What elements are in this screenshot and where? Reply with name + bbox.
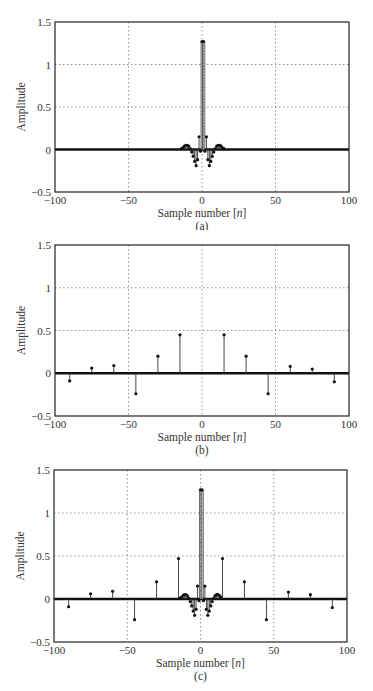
stem-marker xyxy=(208,609,211,612)
x-tick-label: 50 xyxy=(268,644,280,656)
stem-marker xyxy=(309,593,312,596)
stem-marker xyxy=(193,614,196,617)
x-tick-label: 100 xyxy=(339,644,356,656)
x-tick-label: −50 xyxy=(119,644,137,656)
stem-marker xyxy=(111,590,114,593)
stem-marker xyxy=(197,599,200,602)
stem-plot-c: −100−50050100−0.500.511.5Sample number [… xyxy=(0,0,373,691)
stem-marker xyxy=(202,599,205,602)
stem-marker xyxy=(287,591,290,594)
stem-marker xyxy=(177,557,180,560)
stem-marker xyxy=(133,618,136,621)
stem-marker xyxy=(221,557,224,560)
stem-marker xyxy=(67,605,70,608)
stem-marker xyxy=(89,592,92,595)
panel-caption: (c) xyxy=(194,670,207,683)
plot-group: −100−50050100−0.500.511.5Sample number [… xyxy=(14,464,356,683)
stem-marker xyxy=(331,606,334,609)
y-tick-label: −0.5 xyxy=(30,636,50,648)
stem-marker xyxy=(195,608,198,611)
x-tick-label: 0 xyxy=(198,644,204,656)
stem-marker xyxy=(200,488,203,491)
y-tick-label: 1.5 xyxy=(36,464,50,476)
stem-marker xyxy=(203,585,206,588)
y-axis-label: Amplitude xyxy=(14,531,27,580)
y-tick-label: 0.5 xyxy=(36,550,50,562)
stem-marker xyxy=(196,585,199,588)
stem-marker xyxy=(209,604,212,607)
stem-marker xyxy=(206,614,209,617)
y-tick-label: 1 xyxy=(45,507,51,519)
y-tick-label: 0 xyxy=(45,593,51,605)
stem-marker xyxy=(243,580,246,583)
stem-marker xyxy=(155,580,158,583)
stem-marker xyxy=(211,600,214,603)
stem-marker xyxy=(265,618,268,621)
x-axis-label: Sample number [n] xyxy=(156,657,245,670)
